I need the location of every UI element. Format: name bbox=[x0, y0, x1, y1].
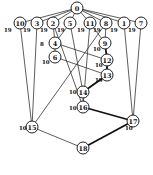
edge-16-17 bbox=[83, 107, 133, 121]
edge-weight-label: 19 bbox=[93, 27, 101, 33]
node-label: 7 bbox=[139, 20, 144, 28]
node-12: 12 bbox=[101, 54, 113, 66]
edge-weight-label: 19 bbox=[95, 77, 103, 83]
edge-10-15 bbox=[20, 23, 32, 127]
node-9: 9 bbox=[99, 37, 111, 49]
node-7: 7 bbox=[135, 17, 147, 29]
node-label: 18 bbox=[78, 145, 88, 153]
edge-weight-label: 10 bbox=[69, 105, 77, 111]
edge-weight-label: 19 bbox=[110, 27, 118, 33]
node-14: 14 bbox=[77, 86, 89, 98]
edge-weight-label: 10 bbox=[125, 125, 133, 131]
node-label: 14 bbox=[78, 89, 88, 97]
edge-1-17 bbox=[124, 23, 133, 121]
node-label: 2 bbox=[51, 20, 56, 28]
edge-7-17 bbox=[133, 23, 141, 121]
edge-weight-label: 10 bbox=[95, 62, 103, 68]
node-13: 13 bbox=[101, 69, 113, 81]
node-label: 1 bbox=[122, 20, 127, 28]
edge-weight-label: 19 bbox=[57, 27, 65, 33]
node-label: 8 bbox=[104, 20, 109, 28]
node-label: 6 bbox=[53, 54, 58, 62]
node-15: 15 bbox=[26, 121, 38, 133]
edge-weight-label: 19 bbox=[23, 27, 31, 33]
edge-15-18 bbox=[32, 127, 83, 148]
node-4: 4 bbox=[49, 37, 61, 49]
node-label: 4 bbox=[53, 40, 58, 48]
node-label: 5 bbox=[68, 20, 73, 28]
edge-3-15 bbox=[32, 23, 37, 127]
edge-8-15 bbox=[32, 23, 106, 127]
node-0: 0 bbox=[71, 2, 83, 14]
node-label: 0 bbox=[75, 5, 80, 13]
edge-weight-label: 10 bbox=[19, 125, 27, 131]
edge-weight-label: 10 bbox=[93, 46, 101, 52]
node-label: 3 bbox=[35, 20, 40, 28]
edge-weight-label: 19 bbox=[4, 27, 12, 33]
node-label: 13 bbox=[102, 72, 112, 80]
edge-weight-label: 8 bbox=[40, 41, 44, 47]
node-label: 15 bbox=[27, 124, 37, 132]
edge-weight-label: 19 bbox=[128, 27, 136, 33]
node-16: 16 bbox=[77, 101, 89, 113]
edge-weight-label: 19 bbox=[77, 27, 85, 33]
node-label: 9 bbox=[103, 40, 108, 48]
edge-weight-label: 10 bbox=[42, 59, 50, 65]
node-5: 5 bbox=[64, 17, 76, 29]
node-label: 16 bbox=[78, 104, 88, 112]
node-6: 6 bbox=[49, 51, 61, 63]
node-18: 18 bbox=[77, 142, 89, 154]
node-label: 12 bbox=[102, 57, 111, 65]
edge-weight-label: 10 bbox=[69, 89, 77, 95]
edge-weight-label: 19 bbox=[40, 27, 48, 33]
graph-diagram: 0103251181746912131416151718 19191919191… bbox=[0, 0, 153, 175]
